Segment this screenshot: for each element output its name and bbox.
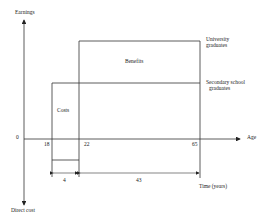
- origin-label: 0: [16, 134, 19, 140]
- university-label: University graduates: [206, 36, 229, 49]
- study-duration-label: 4: [63, 177, 66, 183]
- tick-22: 22: [84, 141, 90, 147]
- x-axis-label: Age: [247, 134, 256, 140]
- work-duration-label: 43: [136, 177, 142, 183]
- secondary-label: Secondary school graduates: [206, 79, 245, 92]
- y-axis-top-label: Earnings: [15, 9, 35, 15]
- benefits-label: Benefits: [125, 58, 143, 64]
- tick-18: 18: [44, 141, 50, 147]
- costs-label: Costs: [57, 107, 69, 113]
- tick-65: 65: [192, 141, 198, 147]
- time-label: Time (years): [199, 183, 227, 189]
- earnings-diagram: [0, 0, 271, 218]
- y-axis-bottom-label: Direct cost: [11, 207, 35, 213]
